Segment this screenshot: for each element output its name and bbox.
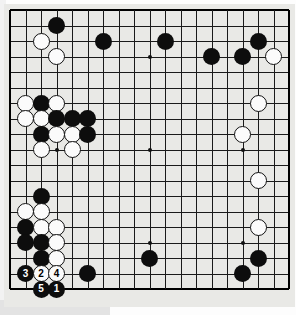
white-stone[interactable] — [64, 141, 81, 158]
white-stone[interactable] — [17, 95, 34, 112]
white-stone[interactable] — [17, 203, 34, 220]
stone-move-number: 2 — [34, 266, 49, 281]
black-stone[interactable] — [48, 17, 65, 34]
white-stone[interactable] — [48, 95, 65, 112]
numbered-stone-5[interactable]: 5 — [33, 281, 50, 298]
white-stone[interactable] — [33, 33, 50, 50]
white-stone[interactable] — [250, 95, 267, 112]
white-stone[interactable] — [250, 219, 267, 236]
numbered-stone-3[interactable]: 3 — [17, 265, 34, 282]
black-stone[interactable] — [33, 188, 50, 205]
black-stone[interactable] — [64, 110, 81, 127]
stone-move-number: 4 — [49, 266, 64, 281]
go-diagram-frame: 32451 — [0, 0, 296, 315]
white-stone[interactable] — [48, 219, 65, 236]
black-stone[interactable] — [48, 110, 65, 127]
black-stone[interactable] — [17, 234, 34, 251]
numbered-stone-1[interactable]: 1 — [48, 281, 65, 298]
board-line-vertical — [227, 10, 228, 289]
black-stone[interactable] — [234, 265, 251, 282]
white-stone[interactable] — [64, 126, 81, 143]
black-stone[interactable] — [141, 250, 158, 267]
board-line-vertical — [9, 10, 11, 289]
board-line-vertical — [181, 10, 182, 289]
star-point — [241, 241, 245, 245]
star-point — [148, 241, 152, 245]
white-stone[interactable] — [48, 234, 65, 251]
board-line-vertical — [288, 10, 290, 289]
black-stone[interactable] — [234, 48, 251, 65]
star-point — [148, 55, 152, 59]
stone-move-number: 3 — [17, 265, 34, 282]
white-stone[interactable] — [234, 126, 251, 143]
white-stone[interactable] — [48, 126, 65, 143]
board-line-vertical — [103, 10, 104, 289]
star-point — [241, 148, 245, 152]
black-stone[interactable] — [79, 110, 96, 127]
black-stone[interactable] — [17, 219, 34, 236]
white-stone[interactable] — [250, 172, 267, 189]
white-stone[interactable] — [48, 48, 65, 65]
black-stone[interactable] — [79, 265, 96, 282]
black-stone[interactable] — [33, 126, 50, 143]
white-stone[interactable] — [33, 203, 50, 220]
board-line-vertical — [88, 10, 89, 289]
stone-move-number: 1 — [48, 281, 65, 298]
black-stone[interactable] — [250, 33, 267, 50]
black-stone[interactable] — [250, 250, 267, 267]
white-stone[interactable] — [33, 110, 50, 127]
black-stone[interactable] — [33, 250, 50, 267]
star-point — [148, 148, 152, 152]
board-line-vertical — [258, 10, 259, 289]
black-stone[interactable] — [79, 126, 96, 143]
stone-move-number: 5 — [33, 281, 50, 298]
black-stone[interactable] — [157, 33, 174, 50]
board-line-vertical — [119, 10, 120, 289]
numbered-stone-4[interactable]: 4 — [48, 265, 65, 282]
black-stone[interactable] — [33, 95, 50, 112]
numbered-stone-2[interactable]: 2 — [33, 265, 50, 282]
board-line-vertical — [134, 10, 135, 289]
white-stone[interactable] — [17, 110, 34, 127]
black-stone[interactable] — [33, 234, 50, 251]
white-stone[interactable] — [48, 250, 65, 267]
white-stone[interactable] — [33, 219, 50, 236]
white-stone[interactable] — [33, 141, 50, 158]
board-line-vertical — [165, 10, 166, 289]
star-point — [55, 148, 59, 152]
go-board-grid: 32451 — [0, 0, 296, 315]
white-stone[interactable] — [265, 48, 282, 65]
board-line-vertical — [196, 10, 197, 289]
black-stone[interactable] — [95, 33, 112, 50]
black-stone[interactable] — [203, 48, 220, 65]
